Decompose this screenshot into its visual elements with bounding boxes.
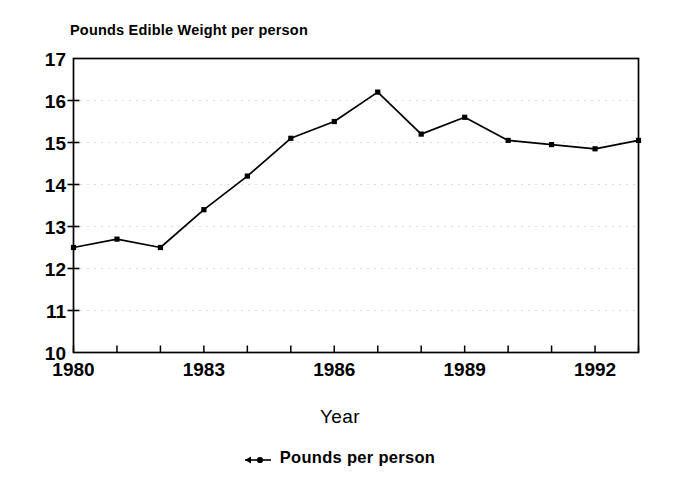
x-axis-tick-label: 1980 bbox=[52, 360, 94, 379]
x-axis-tick-label: 1986 bbox=[313, 360, 355, 379]
x-axis-title: Year bbox=[0, 406, 680, 428]
legend-line-marker-icon bbox=[245, 452, 271, 464]
x-axis-tick-label: 1992 bbox=[574, 360, 616, 379]
axis-tick-marks bbox=[68, 101, 639, 353]
x-axis-tick-label: 1989 bbox=[444, 360, 486, 379]
chart-figure: Pounds Edible Weight per person 10111213… bbox=[0, 0, 680, 484]
chart-legend: Pounds per person bbox=[0, 448, 680, 467]
axis-frame bbox=[74, 59, 639, 353]
x-axis-tick-label: 1983 bbox=[183, 360, 225, 379]
legend-item-label: Pounds per person bbox=[280, 448, 435, 467]
gridlines bbox=[74, 101, 639, 311]
data-series-line bbox=[74, 92, 639, 247]
data-series-markers bbox=[71, 90, 641, 251]
